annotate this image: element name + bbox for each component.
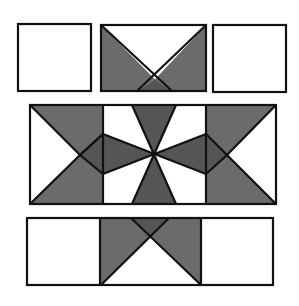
middle-band bbox=[30, 105, 276, 204]
bottom-row bbox=[27, 218, 273, 285]
top-row bbox=[18, 24, 286, 92]
quilt-diagram bbox=[0, 0, 299, 306]
top-right-square bbox=[213, 25, 286, 92]
top-middle-piece bbox=[101, 25, 206, 91]
top-left-square bbox=[18, 24, 91, 91]
bottom-middle-piece bbox=[100, 218, 201, 285]
